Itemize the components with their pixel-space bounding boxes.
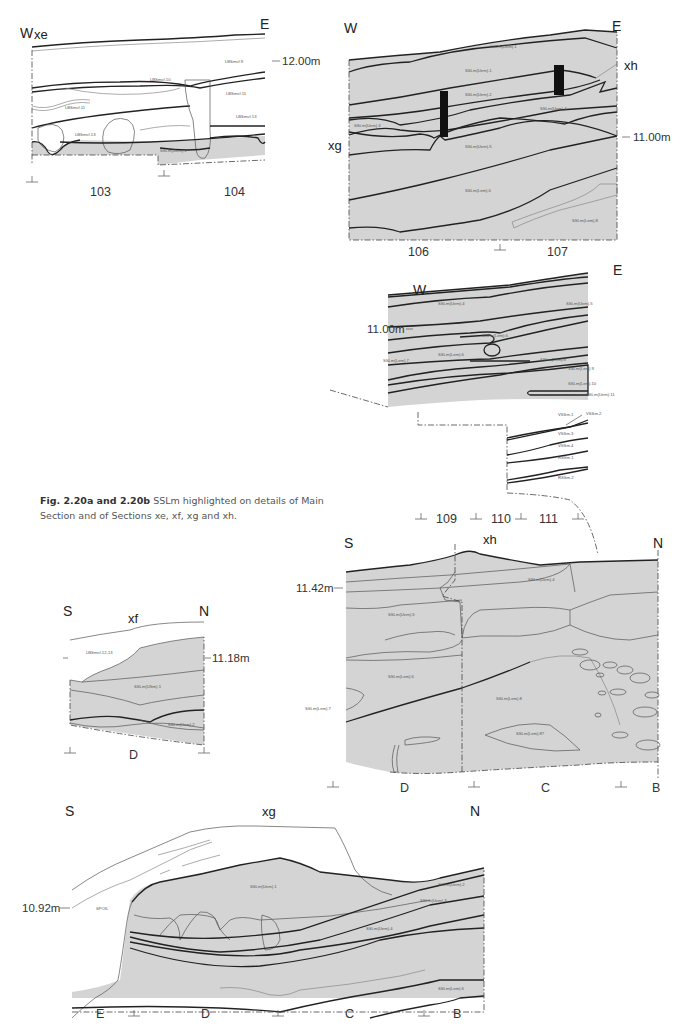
section-marker-xg: xg bbox=[328, 138, 342, 153]
context-label: RSSm.1 bbox=[558, 455, 574, 460]
east-label: E bbox=[612, 18, 621, 34]
context-label: SSLm(Uem).5 bbox=[566, 301, 593, 306]
main-section-lower-panel: W E 11.00m SSLm(Uem).4 SSLm(Uem).5 SSLm(… bbox=[330, 255, 678, 565]
main-section-lower-drawing: W E 11.00m SSLm(Uem).4 SSLm(Uem).5 SSLm(… bbox=[330, 255, 678, 565]
context-label: SSLm(Uem).2 bbox=[465, 92, 492, 97]
context-label: SSLm(Lem).6 bbox=[438, 986, 465, 991]
context-label: SSLm(Uem).4 bbox=[366, 926, 393, 931]
grid-label: 110 bbox=[491, 512, 511, 526]
sslm-fill-area bbox=[32, 136, 265, 165]
context-label: SSLm(Uem).1 bbox=[465, 68, 492, 73]
grid-label: D bbox=[201, 1007, 210, 1021]
figure-caption: Fig. 2.20a and 2.20b SSLm highlighted on… bbox=[40, 493, 340, 523]
section-xe-drawing: W xe E 12.00m LBSmcf.9 LBSmcf.10 LBSmcf.… bbox=[0, 0, 300, 200]
south-label: S bbox=[65, 803, 74, 819]
grid-label: E bbox=[96, 1007, 104, 1021]
elevation-label: 11.42m bbox=[296, 582, 334, 594]
west-label: W bbox=[413, 282, 427, 298]
context-label: SSLm(Lem).6 bbox=[438, 352, 465, 357]
context-label: SSLm(Lem).10 bbox=[568, 381, 597, 386]
sample-column-marker bbox=[440, 91, 448, 137]
context-label: SSLm(Uem).4 bbox=[540, 106, 567, 111]
east-label: E bbox=[260, 16, 269, 32]
north-label: N bbox=[470, 803, 480, 819]
main-section-upper-drawing: W E xh xg 11.00m SSLm(Uem).1 SSLm(Uem).1… bbox=[300, 0, 678, 260]
main-section-upper-panel: W E xh xg 11.00m SSLm(Uem).1 SSLm(Uem).1… bbox=[300, 0, 678, 260]
context-label: SPOIL bbox=[96, 906, 109, 911]
sample-column-marker bbox=[554, 65, 564, 95]
section-xf-panel: S N xf 11.18m LBSmcf.12-13 SSLm(USm).1 S… bbox=[0, 560, 300, 780]
context-label: SSLm(Uem).5 bbox=[465, 144, 492, 149]
context-label: LBSmcf.13 bbox=[75, 132, 96, 137]
context-label: VSSm.4 bbox=[558, 443, 574, 448]
context-label: LBSmcf.12-13 bbox=[86, 650, 113, 655]
context-label: SSLm(Uem).3 bbox=[420, 898, 447, 903]
context-label: SSLm(Uem).4 bbox=[438, 301, 465, 306]
section-xh-panel: S N xh 11.42m SSLm(Uem).4 SSLm(Uem).5 SS… bbox=[280, 540, 678, 800]
context-label: VSSm.1 bbox=[558, 412, 574, 417]
section-xe-panel: W xe E 12.00m LBSmcf.9 LBSmcf.10 LBSmcf.… bbox=[0, 0, 300, 200]
context-label: SSLm(Lem).9 bbox=[568, 366, 595, 371]
north-label: N bbox=[653, 535, 663, 551]
section-label-xe: xe bbox=[34, 27, 48, 42]
context-label: SSLm(Lem).8 bbox=[496, 696, 523, 701]
context-label: SSLm(Lem).6 bbox=[465, 188, 492, 193]
grid-label: B bbox=[453, 1007, 461, 1021]
elevation-label: 11.00m bbox=[633, 131, 671, 143]
east-label: E bbox=[613, 262, 622, 278]
context-label: SSLm(Uem).1 bbox=[160, 148, 187, 153]
grid-label: 109 bbox=[436, 512, 457, 526]
grid-label: 111 bbox=[539, 512, 558, 526]
section-xg-panel: S N xg 10.92m SPOIL SSLm(Uem).1 SSLm(Uem… bbox=[0, 790, 678, 1036]
context-label: LBSmcf.10 bbox=[150, 77, 171, 82]
context-label: SSLm(Uem).5 bbox=[388, 612, 415, 617]
context-label: SSLm(Uem).4 bbox=[528, 577, 555, 582]
section-marker-xh: xh bbox=[624, 58, 638, 73]
elevation-label: 11.00m bbox=[367, 323, 405, 335]
section-label-xf: xf bbox=[128, 611, 139, 626]
grid-label: 104 bbox=[224, 185, 245, 199]
context-label: SSLm(Uem).1 bbox=[250, 884, 277, 889]
context-label: SSLm(Lem).8 bbox=[572, 218, 599, 223]
context-label: VSSm.2 bbox=[586, 411, 602, 416]
context-label: SSLm(Uem).11 bbox=[586, 392, 615, 397]
section-xf-drawing: S N xf 11.18m LBSmcf.12-13 SSLm(USm).1 S… bbox=[0, 560, 300, 780]
context-label: RSSm.2 bbox=[558, 475, 574, 480]
context-label: SSLm(Lem).6 bbox=[388, 674, 415, 679]
section-xg-drawing: S N xg 10.92m SPOIL SSLm(Uem).1 SSLm(Uem… bbox=[0, 790, 678, 1036]
context-label: LBSmcf.11 bbox=[226, 91, 247, 96]
context-label: VSSm.3 bbox=[558, 431, 574, 436]
north-label: N bbox=[199, 603, 209, 619]
context-label: SSLm(Lem).6 bbox=[482, 333, 509, 338]
grid-label: 103 bbox=[90, 185, 111, 199]
context-label: SSLm(Uem).1 bbox=[490, 44, 517, 49]
context-label: SSLm(Uem).3 bbox=[354, 123, 381, 128]
elevation-label: 11.18m bbox=[212, 652, 250, 664]
context-label: SSLm(Lem).8? bbox=[516, 731, 545, 736]
section-xh-drawing: S N xh 11.42m SSLm(Uem).4 SSLm(Uem).5 SS… bbox=[280, 540, 678, 800]
section-label-xg: xg bbox=[262, 804, 276, 819]
south-label: S bbox=[63, 603, 72, 619]
context-label: LBSmcf.13 bbox=[236, 114, 257, 119]
context-label: SSLm(Lem).7 bbox=[305, 706, 332, 711]
section-label-xh: xh bbox=[483, 532, 497, 547]
context-label: LBSmcf.9 bbox=[225, 59, 244, 64]
context-label: SSLm(Lem).7 bbox=[383, 358, 410, 363]
grid-label: D bbox=[129, 748, 138, 762]
context-label: SSLm(Uem).2 bbox=[438, 882, 465, 887]
context-label: SSLm(Lem).8 bbox=[540, 357, 567, 362]
context-label: SSLm(USm).1 bbox=[134, 684, 162, 689]
grid-label: C bbox=[345, 1007, 354, 1021]
context-label: SSLm(Uem).2 bbox=[168, 722, 195, 727]
south-label: S bbox=[344, 535, 353, 551]
west-label: W bbox=[344, 20, 358, 36]
west-label: W bbox=[20, 25, 34, 41]
elevation-label: 10.92m bbox=[22, 902, 60, 914]
caption-title: Fig. 2.20a and 2.20b bbox=[40, 495, 150, 506]
context-label: LBSmcf.11 bbox=[65, 105, 86, 110]
